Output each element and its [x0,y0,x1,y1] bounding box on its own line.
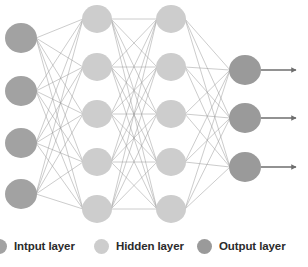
network-node-output [229,103,261,133]
network-node-hidden [82,53,112,81]
connection-edge [185,70,230,114]
network-node-input [5,23,37,53]
legend-item-input-layer: Intput layer [0,236,75,256]
legend: Intput layer Hidden layer Output layer [0,236,308,260]
network-node-hidden [82,195,112,223]
connection-edge [185,70,230,162]
connection-edge [36,38,83,209]
connection-edge [185,67,230,118]
connection-edge [36,194,83,209]
network-node-hidden [156,53,186,81]
connection-edge [36,19,83,38]
network-node-output [229,152,261,182]
network-graph [0,0,308,232]
output-layer-swatch-icon [197,239,212,254]
legend-item-hidden-layer: Hidden layer [94,236,184,256]
legend-label-output-layer: Output layer [219,240,286,252]
network-node-input [5,179,37,209]
connection-edge [36,19,83,194]
input-layer-swatch-icon [0,239,7,254]
connection-edge [185,162,230,167]
connection-edge [36,38,83,162]
connection-edge [185,114,230,167]
network-node-hidden [156,195,186,223]
network-node-hidden [156,5,186,33]
connection-edges [36,19,230,209]
hidden-layer-swatch-icon [94,239,109,254]
network-node-hidden [82,100,112,128]
output-arrows [261,70,296,167]
connection-edge [185,67,230,167]
network-node-output [229,55,261,85]
connection-edge [185,67,230,70]
connection-edge [185,19,230,70]
network-node-hidden [82,5,112,33]
connection-edge [36,67,83,91]
connection-edge [36,91,83,209]
network-node-input [5,76,37,106]
connection-edge [185,118,230,209]
connection-edge [36,67,83,194]
legend-label-hidden-layer: Hidden layer [116,240,184,252]
connection-edge [36,114,83,143]
network-node-hidden [156,100,186,128]
network-node-hidden [82,148,112,176]
legend-label-input-layer: Intput layer [14,240,75,252]
neural-network-figure: Intput layer Hidden layer Output layer [0,0,308,267]
connection-edge [185,19,230,167]
network-node-hidden [156,148,186,176]
connection-edge [36,143,83,209]
legend-item-output-layer: Output layer [197,236,286,256]
connection-edge [36,67,83,143]
network-node-input [5,128,37,158]
